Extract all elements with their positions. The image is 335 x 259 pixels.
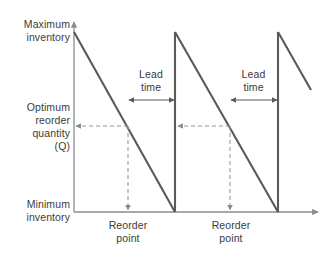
annotation-reorder-point-1: Reorder point [93, 219, 163, 245]
annotation-reorder-point-2: Reorder point [196, 219, 266, 245]
inventory-diagram: Maximum inventory Optimum reorder quanti… [0, 0, 335, 259]
axis-label-optimum-reorder-quantity: Optimum reorder quantity (Q) [4, 101, 70, 153]
inventory-depletion-line-2 [175, 32, 278, 212]
inventory-depletion-line-3 [278, 32, 311, 90]
axis-label-maximum-inventory: Maximum inventory [4, 18, 70, 44]
inventory-depletion-line-1 [74, 32, 175, 212]
annotation-lead-time-2: Lead time [229, 68, 278, 94]
annotation-lead-time-1: Lead time [127, 68, 175, 94]
axis-label-minimum-inventory: Minimum inventory [4, 198, 70, 224]
